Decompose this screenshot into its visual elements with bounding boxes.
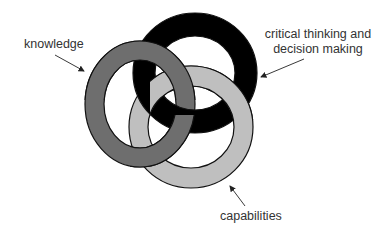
arrow-knowledge (55, 55, 84, 71)
label-capabilities: capabilities (220, 209, 282, 224)
arrow-critical (261, 59, 304, 77)
arrow-capabilities (230, 186, 245, 206)
label-knowledge: knowledge (24, 37, 84, 52)
label-critical-thinking: critical thinking and decision making (258, 27, 374, 57)
label-critical-line1: critical thinking and (258, 27, 374, 42)
label-critical-line2: decision making (258, 42, 374, 57)
